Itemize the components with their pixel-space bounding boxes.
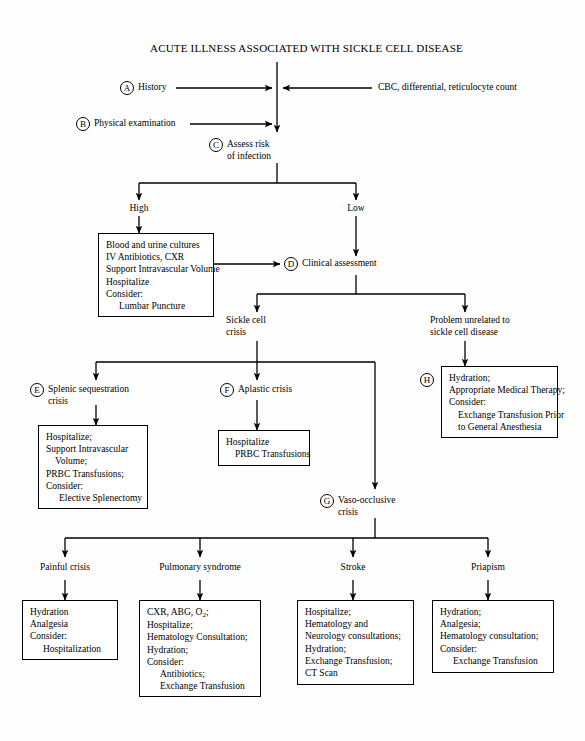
flowchart-canvas: ACUTE ILLNESS ASSOCIATED WITH SICKLE CEL… bbox=[0, 0, 585, 741]
splenic-box-line-2: Volume; bbox=[46, 455, 141, 467]
unrelated-treatment-box: Hydration; Appropriate Medical Therapy; … bbox=[441, 366, 558, 438]
risk-high-label: High bbox=[119, 203, 159, 215]
splenic-box-line-0: Hospitalize; bbox=[46, 431, 141, 443]
vaso-line2: crisis bbox=[338, 507, 358, 517]
outcome-label-painful-crisis: Painful crisis bbox=[20, 562, 110, 574]
splenic-treatment-box: Hospitalize; Support Intravascular Volum… bbox=[38, 425, 148, 509]
splenic-line2: crisis bbox=[48, 396, 68, 406]
unrelated-box-line-4: to General Anesthesia bbox=[449, 421, 551, 433]
unrelated-box-line-1: Appropriate Medical Therapy; bbox=[449, 384, 551, 396]
splenic-box-line-1: Support Intravascular bbox=[46, 443, 141, 455]
priapism-box-line-4: Exchange Transfusion bbox=[440, 655, 547, 667]
painful-box-line-2: Consider: bbox=[30, 630, 111, 642]
unrelated-box-line-0: Hydration; bbox=[449, 372, 551, 384]
assess-risk-line1: Assess risk bbox=[227, 139, 270, 149]
aplastic-crisis-label: Aplastic crisis bbox=[238, 384, 292, 396]
unrelated-problem-label: Problem unrelated tosickle cell disease bbox=[430, 315, 510, 338]
high-risk-line-5: Lumbar Puncture bbox=[106, 300, 207, 312]
high-risk-line-4: Consider: bbox=[106, 288, 207, 300]
pulmonary-box-line-5: Antibiotics; bbox=[147, 668, 254, 680]
splenic-box-line-4: Consider: bbox=[46, 480, 141, 492]
sickle-crisis-line2: crisis bbox=[226, 327, 246, 337]
vaso-occlusive-label: Vaso-occlusivecrisis bbox=[338, 495, 396, 518]
unrelated-box-line-2: Consider: bbox=[449, 396, 551, 408]
pulmonary-box-line-1: Hospitalize; bbox=[147, 619, 254, 631]
aplastic-box-line-0: Hospitalize bbox=[226, 436, 303, 448]
stroke-box-line-5: CT Scan bbox=[305, 667, 407, 679]
painful-box-line-3: Hospitalization bbox=[30, 643, 111, 655]
splenic-line1: Splenic sequestration bbox=[48, 384, 129, 394]
clinical-assessment-label: Clinical assessment bbox=[302, 258, 377, 270]
outcome-label-stroke: Stroke bbox=[313, 562, 393, 574]
assess-risk-label: Assess riskof infection bbox=[227, 139, 271, 162]
priapism-box-line-2: Hematology consultation; bbox=[440, 630, 547, 642]
priapism-box: Hydration; Analgesia; Hematology consult… bbox=[432, 600, 554, 673]
unrelated-box-line-3: Exchange Transfusion Prior bbox=[449, 409, 551, 421]
step-marker-g: G bbox=[320, 494, 334, 508]
vaso-line1: Vaso-occlusive bbox=[338, 495, 396, 505]
painful-box-line-0: Hydration bbox=[30, 606, 111, 618]
priapism-box-line-1: Analgesia; bbox=[440, 618, 547, 630]
stroke-box: Hospitalize; Hematology and Neurology co… bbox=[297, 600, 414, 685]
stroke-box-line-2: Neurology consultations; bbox=[305, 630, 407, 642]
priapism-box-line-0: Hydration; bbox=[440, 606, 547, 618]
outcome-label-pulmonary-syndrome: Pulmonary syndrome bbox=[145, 562, 255, 574]
splenic-sequestration-label: Splenic sequestrationcrisis bbox=[48, 384, 129, 407]
pulmonary-box-line-0: CXR, ABG, O2; bbox=[147, 606, 254, 619]
step-marker-h: H bbox=[420, 373, 434, 387]
pulmonary-syndrome-box: CXR, ABG, O2; Hospitalize; Hematology Co… bbox=[139, 600, 261, 697]
high-risk-line-2: Support Intravascular Volume bbox=[106, 263, 207, 275]
aplastic-treatment-box: Hospitalize PRBC Transfusions bbox=[218, 430, 310, 466]
pulmonary-box-line-4: Consider: bbox=[147, 656, 254, 668]
page-title: ACUTE ILLNESS ASSOCIATED WITH SICKLE CEL… bbox=[150, 42, 463, 54]
high-risk-line-3: Hospitalize bbox=[106, 276, 207, 288]
step-marker-d: D bbox=[284, 257, 298, 271]
stroke-box-line-0: Hospitalize; bbox=[305, 606, 407, 618]
step-marker-a: A bbox=[120, 81, 134, 95]
step-marker-c: C bbox=[209, 138, 223, 152]
sickle-crisis-label: Sickle cellcrisis bbox=[226, 315, 266, 338]
high-risk-treatment-box: Blood and urine cultures IV Antibiotics,… bbox=[98, 233, 214, 317]
pulmonary-box-line-3: Hydration; bbox=[147, 644, 254, 656]
step-marker-b: B bbox=[76, 117, 90, 131]
step-marker-f: F bbox=[220, 383, 234, 397]
aplastic-box-line-1: PRBC Transfusions bbox=[226, 448, 303, 460]
stroke-box-line-3: Hydration; bbox=[305, 643, 407, 655]
history-label: History bbox=[138, 82, 167, 94]
priapism-box-line-3: Consider: bbox=[440, 643, 547, 655]
stroke-box-line-1: Hematology and bbox=[305, 618, 407, 630]
pulmonary-box-line-6: Exchange Transfusion bbox=[147, 680, 254, 692]
painful-box-line-1: Analgesia bbox=[30, 618, 111, 630]
pulmonary-box-line-2: Hematology Consultation; bbox=[147, 631, 254, 643]
painful-crisis-box: Hydration Analgesia Consider: Hospitaliz… bbox=[22, 600, 118, 660]
splenic-box-line-5: Elective Splenectomy bbox=[46, 492, 141, 504]
assess-risk-line2: of infection bbox=[227, 151, 271, 161]
high-risk-line-1: IV Antibiotics, CXR bbox=[106, 251, 207, 263]
outcome-label-priapism: Priapism bbox=[448, 562, 528, 574]
stroke-box-line-4: Exchange Transfusion; bbox=[305, 655, 407, 667]
step-marker-e: E bbox=[30, 383, 44, 397]
unrelated-line2: sickle cell disease bbox=[430, 327, 498, 337]
physical-exam-label: Physical examination bbox=[94, 118, 176, 130]
risk-low-label: Low bbox=[336, 203, 376, 215]
high-risk-line-0: Blood and urine cultures bbox=[106, 239, 207, 251]
lab-tests-label: CBC, differential, reticulocyte count bbox=[378, 82, 517, 94]
unrelated-line1: Problem unrelated to bbox=[430, 315, 510, 325]
splenic-box-line-3: PRBC Transfusions; bbox=[46, 468, 141, 480]
sickle-crisis-line1: Sickle cell bbox=[226, 315, 266, 325]
